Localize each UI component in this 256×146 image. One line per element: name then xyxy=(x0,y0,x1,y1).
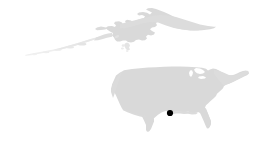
aleutian-island-fareast xyxy=(78,43,87,46)
location-marker-dot xyxy=(167,110,173,116)
us-locator-map-figure: United States Alaska Contiguous United S… xyxy=(0,0,256,146)
alaska-island-baranof xyxy=(121,48,124,50)
aleutian-island-midwest xyxy=(43,51,50,53)
aleutian-island-mid xyxy=(54,49,61,51)
alaska-island-prince-of-wales xyxy=(126,50,129,52)
aleutian-island-west xyxy=(31,54,37,56)
map-canvas xyxy=(0,0,256,146)
aleutian-island-east xyxy=(66,46,74,48)
